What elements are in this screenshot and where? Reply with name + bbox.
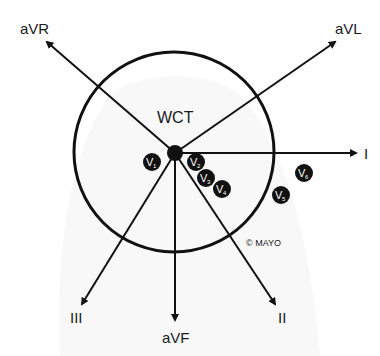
label-I: I bbox=[364, 145, 368, 162]
precordial-lead-V1: V 1 bbox=[143, 153, 161, 171]
precordial-lead-V3: V 3 bbox=[197, 169, 215, 187]
label-II: II bbox=[278, 309, 286, 326]
ecg-lead-diagram: WCT aVR aVL I II aVF III V 1 V 2 V 3 V 4… bbox=[0, 0, 380, 356]
label-aVR: aVR bbox=[20, 20, 49, 37]
precordial-lead-V5: V 5 bbox=[272, 186, 290, 204]
precordial-lead-V4: V 4 bbox=[213, 180, 231, 198]
wct-center-node bbox=[167, 145, 183, 161]
precordial-lead-V2: V 2 bbox=[187, 153, 205, 171]
precordial-lead-V6: V 6 bbox=[295, 164, 313, 182]
label-aVF: aVF bbox=[162, 329, 190, 346]
wct-label: WCT bbox=[157, 109, 194, 126]
label-aVL: aVL bbox=[335, 20, 362, 37]
copyright-label: © MAYO bbox=[246, 238, 281, 248]
label-III: III bbox=[70, 309, 83, 326]
